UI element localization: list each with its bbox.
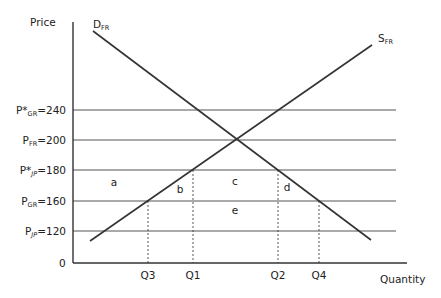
area-d-label: d — [284, 181, 291, 193]
price-label-value: =180 — [37, 164, 66, 176]
area-b-label: b — [177, 183, 184, 195]
price-label-200: PFR=200 — [23, 134, 66, 148]
price-label-value: =200 — [37, 134, 66, 146]
price-label-main: P* — [20, 164, 32, 176]
supply-label-sub: FR — [385, 38, 394, 46]
price-label-main: P* — [16, 104, 28, 116]
welfare-diagram: Price Quantity 0 DFR SFR P*GR=240 PFR=20… — [0, 0, 441, 298]
demand-label-main: D — [93, 18, 101, 30]
origin-label: 0 — [59, 257, 66, 269]
price-label-sub: JP — [29, 170, 37, 178]
q3-label: Q3 — [141, 269, 156, 281]
demand-label: DFR — [93, 18, 110, 32]
price-label-value: =240 — [37, 104, 66, 116]
price-label-sub: JP — [29, 231, 37, 239]
area-e-label: e — [232, 204, 238, 216]
price-label-value: =160 — [37, 195, 66, 207]
y-axis-label: Price — [30, 16, 56, 28]
demand-label-sub: FR — [101, 24, 110, 32]
area-a-label: a — [111, 176, 117, 188]
price-label-180: P*JP=180 — [20, 164, 66, 178]
price-label-value: =120 — [37, 225, 66, 237]
price-label-sub: GR — [28, 110, 38, 118]
supply-label: SFR — [378, 32, 393, 46]
q2-label: Q2 — [271, 269, 286, 281]
area-c-label: c — [232, 175, 238, 187]
q4-label: Q4 — [312, 269, 327, 281]
price-label-120: PJP=120 — [25, 225, 66, 239]
q1-label: Q1 — [186, 269, 201, 281]
x-axis-label: Quantity — [380, 273, 425, 285]
price-label-240: P*GR=240 — [16, 104, 66, 118]
price-label-sub: GR — [28, 201, 38, 209]
price-label-160: PGR=160 — [21, 195, 66, 209]
